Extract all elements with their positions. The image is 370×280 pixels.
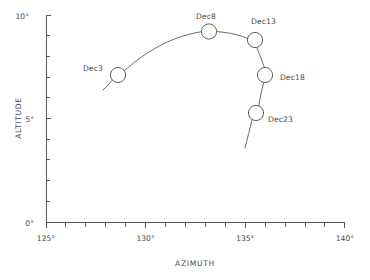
x-axis-tick-labels: 125° 130° 135° 140°: [37, 234, 354, 243]
data-point-dec23: [248, 105, 263, 120]
chart-plot-area: Dec3 Dec8 Dec13 Dec18 Dec23 10° 5° 0° 12…: [0, 0, 370, 280]
point-label-dec3: Dec3: [83, 64, 103, 73]
point-label-dec18: Dec18: [280, 73, 305, 82]
x-axis-ticks: [46, 222, 345, 228]
axis-lines: [46, 15, 345, 222]
x-tick-label-130: 130°: [136, 234, 155, 243]
chart-container: Dec3 Dec8 Dec13 Dec18 Dec23 10° 5° 0° 12…: [0, 0, 370, 280]
x-tick-label-140: 140°: [336, 234, 355, 243]
point-label-dec23: Dec23: [268, 115, 293, 124]
point-label-dec8: Dec8: [196, 12, 216, 21]
data-point-dec3: [110, 67, 125, 82]
x-tick-label-135: 135°: [236, 234, 255, 243]
x-tick-label-125: 125°: [37, 234, 56, 243]
y-axis-ticks: [46, 15, 51, 222]
y-tick-label-0: 0°: [25, 219, 34, 228]
data-point-dec8: [201, 24, 216, 39]
y-tick-label-10: 10°: [16, 12, 30, 21]
data-point-dec18: [257, 67, 272, 82]
point-label-dec13: Dec13: [251, 17, 276, 26]
data-markers: [110, 24, 272, 121]
data-curve: [103, 32, 264, 148]
data-point-dec13: [247, 32, 262, 47]
y-tick-label-5: 5°: [25, 115, 34, 124]
y-axis-title: ALTITUDE: [14, 97, 23, 139]
x-axis-title: AZIMUTH: [175, 259, 215, 268]
